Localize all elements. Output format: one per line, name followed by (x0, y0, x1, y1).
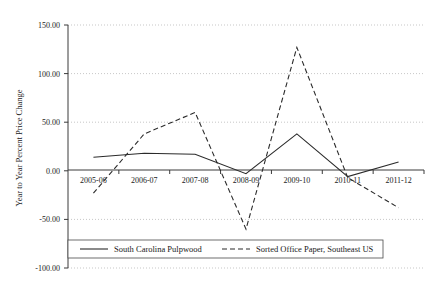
y-tick-label: 50.00 (42, 118, 60, 127)
axes-group (68, 25, 424, 268)
chart-container: 150.00100.0050.000.00-50.00-100.00 2005-… (0, 0, 434, 285)
x-tick-group (119, 170, 424, 174)
x-tick-label: 2008-09 (233, 176, 260, 185)
y-tick-label: -50.00 (39, 215, 60, 224)
x-tick-label: 2005-06 (80, 176, 107, 185)
y-tick-label: 100.00 (38, 70, 60, 79)
x-tick-label: 2006-07 (131, 176, 158, 185)
y-tick-label: 0.00 (46, 167, 60, 176)
line-chart: 150.00100.0050.000.00-50.00-100.00 2005-… (0, 0, 434, 285)
legend-label-sorted-office-paper: Sorted Office Paper, Southeast US (256, 244, 374, 254)
x-tick-label: 2007-08 (182, 176, 209, 185)
x-tick-label: 2009-10 (284, 176, 311, 185)
chart-legend: South Carolina Pulpwood Sorted Office Pa… (68, 240, 383, 258)
x-tick-label-group: 2005-062006-072007-082008-092009-102010-… (80, 176, 412, 185)
gridlines-group (68, 25, 424, 268)
y-tick-label-group: 150.00100.0050.000.00-50.00-100.00 (35, 21, 60, 273)
y-axis-title: Year to Year Percent Price Change (14, 89, 24, 206)
x-tick-label: 2011-12 (385, 176, 411, 185)
y-tick-label: 150.00 (38, 21, 60, 30)
y-tick-group (64, 25, 68, 268)
series-line-sorted-office-paper-southeast-us (93, 47, 398, 229)
series-group (93, 47, 398, 229)
y-tick-label: -100.00 (35, 264, 60, 273)
legend-label-south-carolina-pulpwood: South Carolina Pulpwood (114, 244, 203, 254)
